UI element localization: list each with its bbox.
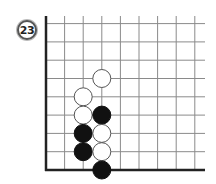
go-board bbox=[0, 0, 216, 184]
stones-layer bbox=[74, 70, 111, 180]
black-stone bbox=[93, 161, 111, 179]
board-edges bbox=[45, 16, 205, 171]
white-stone bbox=[74, 106, 92, 124]
black-stone bbox=[74, 124, 92, 142]
board-grid bbox=[46, 16, 205, 170]
white-stone bbox=[93, 70, 111, 88]
white-stone bbox=[93, 143, 111, 161]
black-stone bbox=[93, 106, 111, 124]
white-stone bbox=[74, 88, 92, 106]
black-stone bbox=[74, 143, 92, 161]
white-stone bbox=[93, 124, 111, 142]
